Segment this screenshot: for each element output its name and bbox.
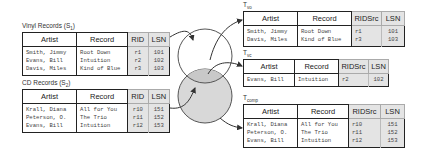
col-rid: RID bbox=[128, 90, 148, 104]
col-ridsrc: RIDSrc bbox=[339, 60, 369, 74]
table-row: Davis, MilesKind of Bluer3103 bbox=[23, 65, 170, 76]
table-row: Smith, JimmyRoot Downr1101 bbox=[23, 47, 170, 58]
col-record: Record bbox=[77, 33, 128, 47]
arrow-to-tcomp bbox=[220, 118, 242, 128]
col-rid: RID bbox=[128, 33, 148, 47]
col-artist: Artist bbox=[23, 33, 77, 47]
col-ridsrc: RIDSrc bbox=[352, 12, 382, 26]
table-row: Krall, DianaAll for Your10151 bbox=[23, 104, 170, 115]
table-row: Evans, BillIntuitionr2102 bbox=[244, 74, 389, 87]
col-artist: Artist bbox=[244, 12, 298, 26]
table-row: Evans, BillIntuitionr12153 bbox=[23, 122, 170, 133]
col-ridsrc: RIDSrc bbox=[349, 105, 381, 119]
col-artist: Artist bbox=[244, 105, 298, 119]
col-artist: Artist bbox=[244, 60, 295, 74]
table-row: Evans, BillIntuitionr12153 bbox=[244, 137, 405, 148]
t-comp-label: Tcomp bbox=[243, 94, 258, 103]
arrow-to-tvo bbox=[210, 20, 242, 60]
t-vc-table: Artist Record RIDSrc LSN Evans, BillIntu… bbox=[243, 59, 389, 87]
vinyl-records-table: Artist Record RID LSN Smith, JimmyRoot D… bbox=[22, 32, 170, 76]
cd-records-label: CD Records (S2) bbox=[22, 79, 70, 88]
col-record: Record bbox=[298, 12, 352, 26]
t-vo-table: Artist Record RIDSrc LSN Smith, JimmyRoo… bbox=[243, 11, 405, 47]
table-row: Peterson, O.The Trior11152 bbox=[244, 129, 405, 137]
t-vc-label: Tvc bbox=[243, 49, 251, 58]
col-lsn: LSN bbox=[148, 33, 169, 47]
table-row: Krall, DianaAll for Your10151 bbox=[244, 119, 405, 130]
t-vo-label: Tvo bbox=[243, 1, 252, 10]
vinyl-records-label: Vinyl Records (S1) bbox=[22, 22, 75, 31]
col-lsn: LSN bbox=[382, 12, 405, 26]
t-comp-table: Artist Record RIDSrc LSN Krall, DianaAll… bbox=[243, 104, 405, 148]
arrow-vinyl-to-circle bbox=[170, 31, 193, 40]
table-row: Smith, JimmyRoot Downr1101 bbox=[244, 26, 405, 37]
col-lsn: LSN bbox=[381, 105, 405, 119]
cd-records-table: Artist Record RID LSN Krall, DianaAll fo… bbox=[22, 89, 170, 133]
table-row: Evans, BillIntuitionr2102 bbox=[23, 57, 170, 65]
col-record: Record bbox=[295, 60, 339, 74]
col-record: Record bbox=[77, 90, 128, 104]
col-artist: Artist bbox=[23, 90, 77, 104]
col-lsn: LSN bbox=[148, 90, 169, 104]
table-row: Davis, MilesKind of Bluer3103 bbox=[244, 36, 405, 47]
table-row: Peterson, O.The Trior11152 bbox=[23, 114, 170, 122]
col-record: Record bbox=[298, 105, 349, 119]
col-lsn: LSN bbox=[369, 60, 389, 74]
